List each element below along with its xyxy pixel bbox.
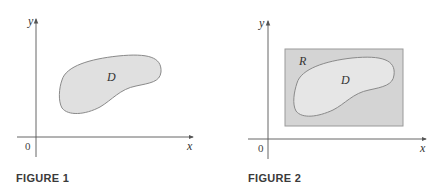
fig2-origin-label: 0 (258, 142, 264, 154)
diagram-canvas: D y x 0 R D y x 0 (0, 0, 443, 192)
figure-2-caption: FIGURE 2 (248, 172, 301, 184)
fig2-region-d-label: D (340, 73, 350, 87)
figure-1-caption: FIGURE 1 (16, 172, 69, 184)
fig2-region-r-label: R (298, 54, 307, 68)
fig2-y-label: y (258, 16, 265, 30)
fig1-region-d (59, 55, 161, 113)
fig1-origin-label: 0 (25, 140, 31, 152)
fig1-x-label: x (186, 139, 193, 153)
fig1-region-d-label: D (106, 70, 116, 84)
fig1-y-label: y (27, 14, 34, 28)
figure-1: D y x 0 (17, 14, 193, 157)
figure-2: R D y x 0 (248, 16, 426, 159)
fig2-x-label: x (419, 141, 426, 155)
